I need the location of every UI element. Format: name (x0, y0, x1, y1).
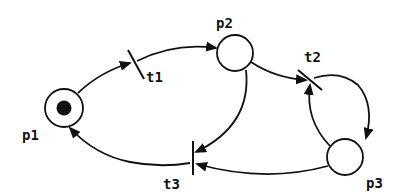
label-t3: t3 (163, 176, 180, 192)
label-p2: p2 (216, 15, 233, 31)
label-p1: p1 (22, 127, 39, 143)
transition-t1-bar (128, 50, 144, 79)
arc-t3-p1 (70, 128, 190, 165)
label-t1: t1 (146, 69, 163, 85)
arc-p2-t3 (196, 70, 247, 152)
place-p3 (327, 139, 363, 175)
place-p2 (217, 35, 253, 71)
arc-p1-t1 (78, 63, 130, 93)
token-icon (57, 101, 72, 116)
arc-t2-p3 (314, 75, 369, 138)
label-t2: t2 (304, 49, 321, 65)
arc-p3-t3 (197, 164, 328, 174)
arc-p3-t2 (309, 85, 330, 146)
petri-net-diagram: p1 p2 p3 t1 t2 t3 (0, 0, 400, 196)
arc-t1-p2 (137, 47, 216, 61)
label-p3: p3 (366, 175, 383, 191)
